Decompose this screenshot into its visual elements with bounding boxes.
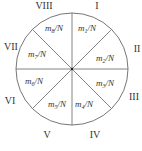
- sector-numeral-2: II: [134, 43, 141, 54]
- sector-diagram: I II III IV V VI VII VIII m1/N m2/N m3/N…: [0, 0, 142, 151]
- sector-numeral-6: VI: [5, 95, 16, 106]
- sector-label-2: m2/N: [96, 53, 115, 64]
- sector-label-7: m7/N: [28, 49, 47, 60]
- center-point: [71, 68, 73, 70]
- sector-numeral-4: IV: [90, 129, 101, 140]
- sector-label-6: m6/N: [25, 76, 44, 87]
- sector-numeral-8: VIII: [35, 0, 52, 11]
- sector-numeral-5: V: [43, 129, 51, 140]
- sector-label-4: m4/N: [75, 99, 94, 110]
- sector-label-8: m8/N: [45, 23, 64, 34]
- sector-numeral-1: I: [95, 0, 98, 11]
- sector-label-5: m5/N: [48, 99, 67, 110]
- sector-label-3: m3/N: [96, 78, 115, 89]
- sector-label-1: m1/N: [78, 23, 97, 34]
- sector-numeral-3: III: [129, 91, 139, 102]
- sector-numeral-7: VII: [4, 41, 18, 52]
